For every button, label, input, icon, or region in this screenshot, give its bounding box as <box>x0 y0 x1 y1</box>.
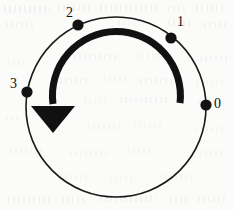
rotation-arc <box>52 32 180 104</box>
circle-rotation-figure: 0 1 2 3 <box>0 0 234 210</box>
point-label-0: 0 <box>214 97 221 111</box>
point-dot-3 <box>21 86 32 97</box>
arrowhead-icon <box>31 106 75 133</box>
point-dot-2 <box>72 19 83 30</box>
point-label-1: 1 <box>177 15 184 29</box>
point-dot-1 <box>165 32 176 43</box>
rotation-diagram-svg <box>0 0 234 210</box>
point-dot-0 <box>200 99 211 110</box>
point-label-3: 3 <box>10 77 17 91</box>
point-label-2: 2 <box>66 6 73 20</box>
